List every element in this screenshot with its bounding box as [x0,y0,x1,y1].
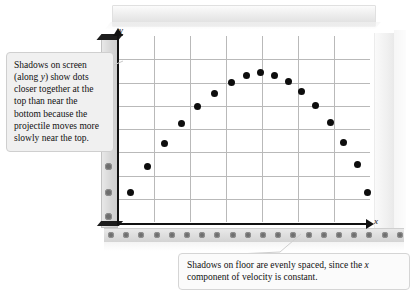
ceiling-edge [105,22,380,29]
x-shadow-dot [184,232,190,238]
gridline-horizontal [118,83,370,84]
trajectory-dot [312,102,319,109]
trajectory-dot [364,189,371,196]
gridline-horizontal [118,106,370,107]
y-axis-label: y [119,25,123,35]
x-axis [117,223,370,225]
callout-bottom-text: Shadows on floor are evenly spaced, sinc… [187,260,369,282]
x-shadow-dot [321,232,327,238]
x-shadow-dot [108,232,114,238]
gridline-horizontal [118,129,370,130]
x-shadow-dot [306,232,312,238]
trajectory-dot [178,120,185,127]
x-shadow-dot [169,232,175,238]
plot-area [118,36,370,222]
trajectory-dot [144,163,151,170]
gridline-horizontal [118,176,370,177]
gridline-horizontal [118,199,370,200]
x-axis-label: x [374,216,378,226]
trajectory-dot [161,140,168,147]
y-shadow-dot [105,163,112,170]
trajectory-dot [271,72,278,79]
x-shadow-dot [382,232,388,238]
x-shadow-dot [397,232,403,238]
callout-left-text: Shadows on screen (along y) show dots cl… [14,60,99,143]
x-shadow-dot [230,232,236,238]
trajectory-dot [285,78,292,85]
projectile-motion-figure: y x Shadows on screen (along y) show dot… [0,0,418,290]
x-shadow-dot [154,232,160,238]
trajectory-dot [243,72,250,79]
trajectory-dot [211,90,218,97]
callout-bottom: Shadows on floor are evenly spaced, sinc… [178,253,410,290]
x-axis-arrow-icon [366,219,374,229]
gridline-horizontal [118,152,370,153]
x-shadow-dot [336,232,342,238]
trajectory-dot [327,119,334,126]
trajectory-dot [228,79,235,86]
right-wall-panel-outer [394,30,406,230]
callout-left: Shadows on screen (along y) show dots cl… [6,52,114,152]
gridline-horizontal [118,59,370,60]
